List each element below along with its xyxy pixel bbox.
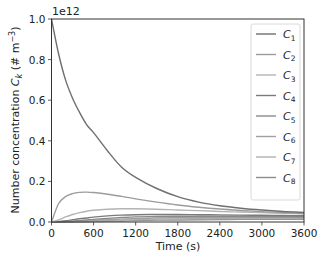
x-tick-label: 3000 (249, 227, 276, 239)
y-axis-label: Number concentration Ck (# m−3) (8, 26, 24, 213)
x-tick-label: 1200 (122, 227, 149, 239)
x-tick-label: 1800 (164, 227, 191, 239)
legend-box (251, 24, 300, 200)
y-axis: 0.00.20.40.60.81.0 (29, 13, 52, 228)
y-tick-label: 0.0 (29, 216, 46, 228)
line-chart: 060012001800240030003600 0.00.20.40.60.8… (0, 0, 328, 267)
x-tick-label: 600 (84, 227, 104, 239)
y-tick-label: 0.6 (29, 94, 46, 106)
x-axis-label: Time (s) (155, 240, 201, 253)
y-tick-label: 1.0 (29, 13, 46, 25)
y-tick-label: 0.2 (29, 175, 46, 187)
x-tick-label: 2400 (206, 227, 233, 239)
y-tick-label: 0.8 (29, 54, 46, 66)
y-offset-label: 1e12 (52, 5, 80, 18)
x-axis: 060012001800240030003600 (48, 222, 317, 239)
x-tick-label: 0 (48, 227, 55, 239)
y-tick-label: 0.4 (29, 135, 46, 147)
x-tick-label: 3600 (291, 227, 318, 239)
legend: C1C2C3C4C5C6C7C8 (251, 24, 300, 200)
